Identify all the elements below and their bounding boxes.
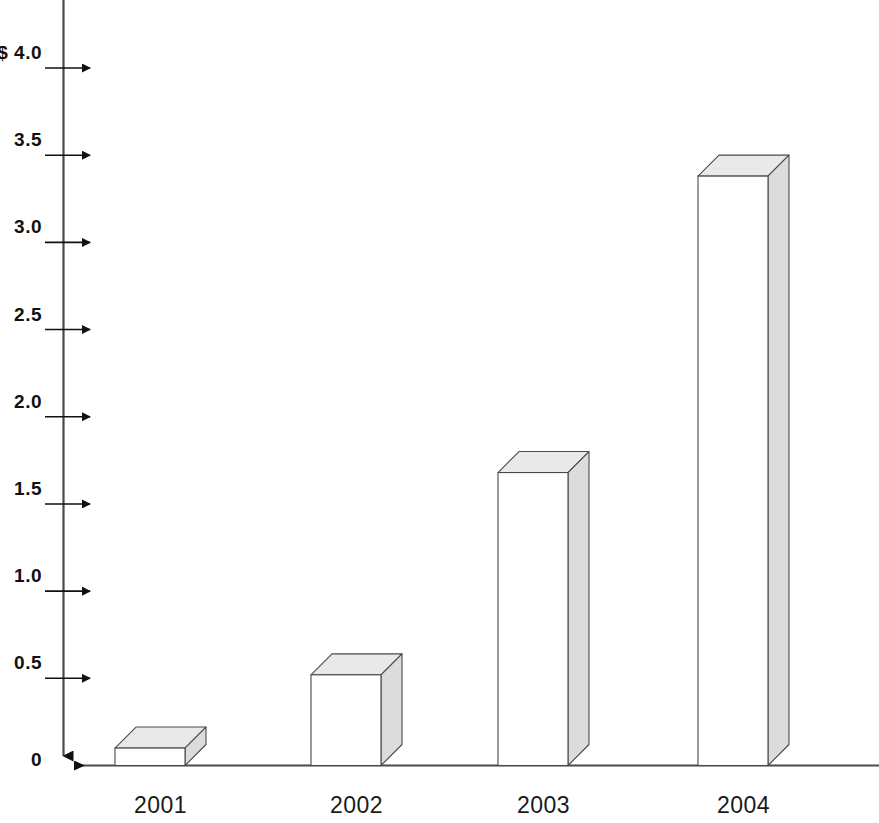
bars-group [115,155,789,765]
y-axis-tick-label: $ 4.0 [0,42,42,64]
bar-2002 [311,654,402,766]
bar-2001 [115,727,206,765]
bar-front-face [311,675,381,766]
y-axis-tick-label: 3.0 [14,216,42,238]
bar-2003 [498,452,589,766]
bar-2004 [698,155,789,765]
x-axis-tick-label: 2002 [297,792,417,819]
x-axis-tick-label: 2001 [101,792,221,819]
bar-front-face [498,473,568,766]
y-axis-tick-label: 2.5 [14,304,42,326]
x-axis-tick-label: 2003 [484,792,604,819]
y-axis-tick-label: 0.5 [14,652,42,674]
bar-side-face [768,155,789,765]
bar-side-face [568,452,589,766]
y-axis-tick-label: 2.0 [14,391,42,413]
chart-canvas [0,0,879,823]
y-axis-tick-label: 0 [31,749,42,771]
bar-front-face [115,748,185,765]
x-axis-tick-label: 2004 [684,792,804,819]
y-axis-tick-label: 1.0 [14,565,42,587]
y-axis-tick-label: 1.5 [14,478,42,500]
y-axis-tick-label: 3.5 [14,129,42,151]
bar-front-face [698,176,768,765]
y-axis-tick-marks [45,68,90,678]
bar-chart: $ 4.03.53.02.52.01.51.00.50 200120022003… [0,0,879,823]
